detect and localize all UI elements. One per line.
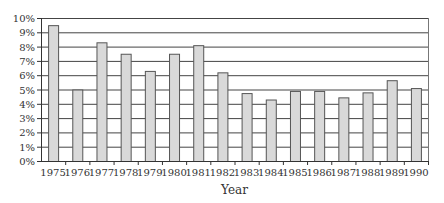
y-tick-label: 6% (19, 70, 35, 81)
y-tick-label: 10% (13, 13, 35, 24)
bar-1989 (387, 81, 397, 162)
x-tick-label: 1987 (331, 167, 356, 178)
x-tick-label: 1979 (137, 167, 162, 178)
bar-1977 (97, 43, 107, 162)
bar-1983 (242, 94, 252, 162)
y-tick-label: 9% (19, 27, 35, 38)
y-tick-labels: 0%1%2%3%4%5%6%7%8%9%10% (13, 13, 35, 167)
x-tick-label: 1990 (403, 167, 428, 178)
y-tick-label: 8% (19, 42, 35, 53)
bar-1987 (339, 98, 349, 162)
bar-chart: 0%1%2%3%4%5%6%7%8%9%10% 1975197619771978… (0, 0, 444, 203)
x-tick-label: 1988 (355, 167, 380, 178)
bar-1978 (121, 54, 131, 161)
bars (49, 26, 422, 162)
x-tick-labels: 1975197619771978197919801981198219831984… (40, 167, 428, 178)
bar-1975 (49, 26, 59, 162)
x-tick-label: 1989 (379, 167, 404, 178)
bar-1986 (315, 91, 325, 161)
bar-1988 (363, 93, 373, 162)
x-tick-label: 1975 (40, 167, 65, 178)
y-tick-label: 1% (19, 142, 35, 153)
x-tick-label: 1985 (282, 167, 307, 178)
x-tick-label: 1983 (234, 167, 259, 178)
x-axis-title: Year (220, 183, 248, 197)
y-tick-label: 5% (19, 85, 35, 96)
y-tick-label: 2% (19, 127, 35, 138)
x-tick-label: 1977 (89, 167, 114, 178)
x-tick-label: 1976 (65, 167, 90, 178)
bar-1985 (290, 91, 300, 161)
bar-1982 (218, 73, 228, 162)
x-tick-label: 1981 (185, 167, 210, 178)
x-tick-label: 1984 (258, 167, 283, 178)
bar-1979 (145, 71, 155, 161)
y-tick-label: 0% (19, 156, 35, 167)
x-tick-label: 1982 (210, 167, 235, 178)
bar-1980 (170, 54, 180, 161)
bar-1976 (73, 90, 83, 162)
x-tick-label: 1980 (161, 167, 186, 178)
bar-1981 (194, 46, 204, 162)
y-tick-label: 3% (19, 113, 35, 124)
x-tick-label: 1978 (113, 167, 138, 178)
bar-1990 (411, 89, 421, 162)
y-tick-label: 7% (19, 56, 35, 67)
y-tick-label: 4% (19, 99, 35, 110)
bar-1984 (266, 100, 276, 161)
x-tick-label: 1986 (306, 167, 331, 178)
